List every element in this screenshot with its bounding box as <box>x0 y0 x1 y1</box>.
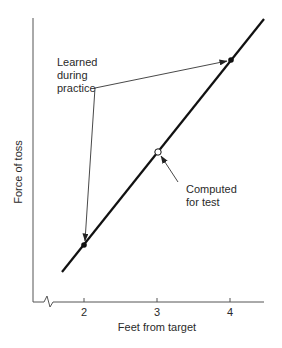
y-axis-title: Force of toss <box>12 140 24 204</box>
learned-leader-upper <box>95 61 227 88</box>
point-2-learned <box>81 242 87 248</box>
learned-leader-lower <box>85 88 95 241</box>
x-tick-label-4: 4 <box>227 306 233 318</box>
axis-break-icon <box>44 296 53 307</box>
chart-canvas: 2 3 4 Feet from target Force of toss Lea… <box>0 0 282 348</box>
point-4-learned <box>228 57 234 63</box>
computed-label: Computed for test <box>186 183 237 208</box>
svg-text:practice: practice <box>57 82 96 94</box>
svg-text:for test: for test <box>186 196 220 208</box>
svg-text:during: during <box>57 69 88 81</box>
x-tick-label-2: 2 <box>81 306 87 318</box>
learned-label: Learned during practice <box>57 56 97 94</box>
computed-leader <box>161 156 178 182</box>
svg-text:Learned: Learned <box>57 56 97 68</box>
x-axis-title: Feet from target <box>118 321 196 333</box>
point-3-computed <box>155 149 161 155</box>
x-tick-label-3: 3 <box>154 306 160 318</box>
svg-text:Computed: Computed <box>186 183 237 195</box>
